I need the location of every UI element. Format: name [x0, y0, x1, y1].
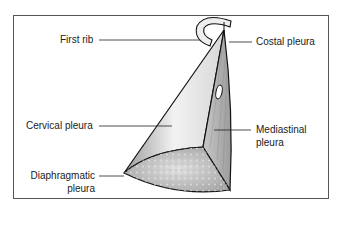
label-mediastinal-pleura-line2: pleura: [256, 137, 284, 149]
label-costal-pleura: Costal pleura: [256, 36, 315, 48]
label-diaphragmatic-pleura-line2: pleura: [20, 183, 95, 195]
label-first-rib: First rib: [60, 34, 93, 46]
label-mediastinal-pleura-line1: Mediastinal: [256, 124, 307, 136]
label-cervical-pleura: Cervical pleura: [26, 120, 93, 132]
label-diaphragmatic-pleura-line1: Diaphragmatic: [20, 170, 95, 182]
